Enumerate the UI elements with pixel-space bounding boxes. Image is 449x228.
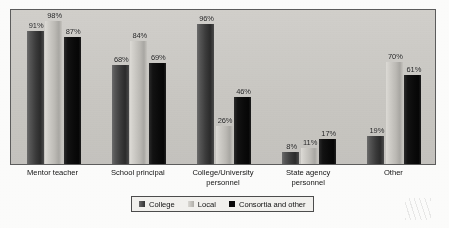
bar-value-label: 87% — [63, 28, 84, 36]
bar — [130, 41, 147, 164]
bar — [197, 24, 214, 164]
bar — [45, 21, 62, 164]
bar — [64, 37, 81, 164]
legend-item: College — [139, 200, 175, 209]
bar — [234, 97, 251, 164]
legend-item: Local — [188, 200, 216, 209]
category-label: Other — [351, 168, 436, 178]
category-label: School principal — [95, 168, 180, 178]
legend-label: Local — [198, 200, 216, 209]
bar-value-label: 26% — [215, 117, 236, 125]
category-label: State agency personnel — [266, 168, 351, 187]
category-label: College/University personnel — [180, 168, 265, 187]
bar-value-label: 69% — [148, 54, 169, 62]
bar — [112, 65, 129, 164]
bar-value-label: 46% — [233, 88, 254, 96]
chart-plot-area: 91%98%87%68%84%69%96%26%46%8%11%17%19%70… — [10, 9, 436, 165]
bars-layer: 91%98%87%68%84%69%96%26%46%8%11%17%19%70… — [11, 10, 435, 164]
chart-legend: CollegeLocalConsortia and other — [131, 196, 314, 212]
legend-swatch-icon — [139, 201, 145, 207]
legend-label: College — [149, 200, 175, 209]
bar-value-label: 68% — [111, 56, 132, 64]
bar — [27, 31, 44, 164]
bar — [386, 62, 403, 164]
bar-value-label: 91% — [26, 22, 47, 30]
legend-item: Consortia and other — [229, 200, 306, 209]
bar — [149, 63, 166, 164]
bar — [282, 152, 299, 164]
bar — [216, 126, 233, 164]
bar-value-label: 84% — [129, 32, 150, 40]
legend-swatch-icon — [229, 201, 235, 207]
bar-value-label: 19% — [366, 127, 387, 135]
bar — [367, 136, 384, 164]
bar-value-label: 98% — [44, 12, 65, 20]
bar-value-label: 70% — [385, 53, 406, 61]
bar-value-label: 11% — [300, 139, 321, 147]
bar-value-label: 61% — [403, 66, 424, 74]
legend-swatch-icon — [188, 201, 194, 207]
category-axis-labels: Mentor teacherSchool principalCollege/Un… — [10, 168, 436, 196]
bar-value-label: 17% — [318, 130, 339, 138]
bar — [404, 75, 421, 164]
scan-artifact — [405, 198, 431, 220]
bar-value-label: 96% — [196, 15, 217, 23]
bar — [301, 148, 318, 164]
legend-label: Consortia and other — [239, 200, 306, 209]
category-label: Mentor teacher — [10, 168, 95, 178]
bar — [319, 139, 336, 164]
